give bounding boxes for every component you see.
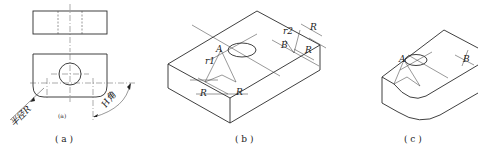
- point-b-label: B: [462, 54, 470, 64]
- panel-c: A B ( c ): [382, 30, 478, 144]
- bottom-rounded-edge: [382, 93, 478, 120]
- point-b-label: B: [280, 40, 288, 50]
- r2-label: r2: [283, 26, 293, 36]
- top-front-rounded-edge: [382, 65, 478, 98]
- radius-label-1: R: [199, 88, 207, 98]
- caption-a: ( a ): [55, 134, 73, 144]
- radius-label-4: R: [304, 45, 312, 55]
- hole-ellipse: [228, 43, 256, 57]
- r1-label: r1: [205, 56, 215, 66]
- radius-label-2: R: [235, 87, 243, 97]
- caption-b: ( b ): [235, 134, 254, 144]
- technical-drawing: 半径R H角 (a) ( a ) A: [0, 0, 478, 150]
- point-a-label: A: [398, 54, 406, 64]
- angle-label: H角: [99, 89, 118, 110]
- radius-label-3: R: [309, 22, 317, 32]
- point-a-label: A: [215, 44, 223, 54]
- panel-b: A r1 B r2 R R R R ( b ): [168, 11, 326, 144]
- sub-caption-a: (a): [58, 112, 66, 119]
- panel-a: 半径R H角 (a) ( a ): [8, 4, 135, 144]
- radius-label: 半径R: [8, 104, 33, 129]
- block-outline: [168, 11, 320, 123]
- caption-c: ( c ): [404, 134, 422, 144]
